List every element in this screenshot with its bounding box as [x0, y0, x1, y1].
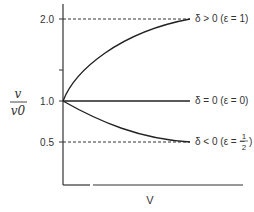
label-close-paren: ) — [249, 136, 252, 147]
curve-delta-positive — [63, 19, 190, 101]
curve-delta-negative — [63, 101, 190, 142]
x-axis-label: V — [146, 194, 154, 206]
label-frac-den: 2 — [242, 143, 247, 152]
label-delta-zero: δ = 0 (ε = 0) — [195, 95, 248, 106]
label-frac-num: 1 — [242, 132, 247, 141]
y-axis-label-numerator: v — [15, 87, 22, 101]
y-tick-label-1: 1.0 — [40, 96, 54, 107]
label-delta-positive: δ > 0 (ε = 1) — [195, 13, 248, 24]
label-delta-negative: δ < 0 (ε = − — [195, 136, 245, 147]
y-axis-label-denominator: v0 — [11, 104, 26, 118]
y-tick-label-2: 2.0 — [40, 14, 54, 25]
y-tick-label-0.5: 0.5 — [40, 137, 54, 148]
chart: 2.0 1.0 0.5 v v0 δ > 0 (ε = 1) δ = 0 (ε … — [0, 0, 254, 212]
